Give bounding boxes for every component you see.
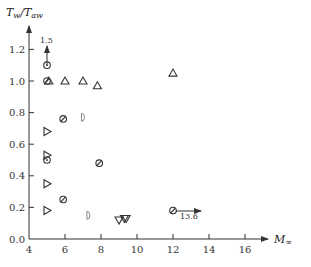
y-tick-label: 0.0 [9,234,25,245]
x-tick-label: 4 [26,244,32,255]
up-triangle-marker [79,77,87,84]
up-triangle-marker [61,77,69,84]
y-axis-title: Tw/Taw [6,6,43,20]
annotation-range-right: 13.6 [176,211,201,221]
slashed-circle-marker [170,207,177,214]
scatter-chart: 0.00.20.40.60.81.01.2 46810121416 Tw/Taw… [0,0,311,267]
svg-text:13.6: 13.6 [180,212,198,221]
slashed-circle-marker [96,160,103,167]
data-points [44,62,177,224]
slashed-circle-marker [60,196,67,203]
half-circle-marker [82,113,85,121]
right-triangle-marker [44,180,51,188]
svg-text:1.5: 1.5 [40,36,53,45]
annotation-off-scale-up: 1.5 [40,36,53,65]
x-axis-title: M∞ [273,233,292,247]
y-tick-label: 1.2 [9,44,25,55]
y-tick-label: 0.8 [9,107,25,118]
y-tick-label: 0.2 [9,202,25,213]
up-triangle-marker [169,69,177,76]
x-tick-label: 16 [239,244,252,255]
axes [29,26,268,239]
x-tick-label: 8 [98,244,104,255]
y-tick-label: 1.0 [9,76,25,87]
y-ticks: 0.00.20.40.60.81.01.2 [9,44,34,245]
x-tick-label: 6 [62,244,68,255]
y-tick-label: 0.6 [9,139,25,150]
right-triangle-marker [44,128,51,136]
x-ticks: 46810121416 [26,234,252,255]
up-triangle-marker [93,82,101,89]
right-triangle-marker [44,207,51,215]
x-tick-label: 12 [167,244,180,255]
x-tick-label: 14 [203,244,216,255]
y-tick-label: 0.4 [9,170,25,181]
x-tick-label: 10 [131,244,144,255]
half-circle-marker [87,211,90,219]
slashed-circle-marker [60,116,67,123]
